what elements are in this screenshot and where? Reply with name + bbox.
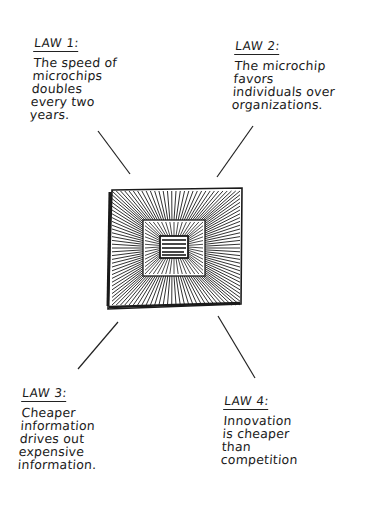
law-2: LAW 2: The microchip favors individuals … — [235, 35, 337, 111]
connector-law-1 — [98, 131, 130, 174]
law-3: LAW 3: Cheaper information drives out ex… — [22, 382, 101, 471]
law-line: competition — [220, 453, 298, 466]
law-title: LAW 1: — [33, 36, 80, 52]
law-line: information. — [17, 458, 96, 471]
law-description: Innovation is cheaper than competition — [220, 414, 300, 466]
law-description: The speed of microchips doubles every tw… — [29, 56, 117, 121]
law-description: Cheaper information drives out expensive… — [17, 406, 100, 471]
law-title: LAW 4: — [223, 394, 270, 410]
law-title: LAW 3: — [21, 386, 68, 402]
microchip-icon — [108, 188, 242, 309]
law-line: years. — [29, 108, 113, 121]
law-description: The microchip favors individuals over or… — [231, 59, 337, 111]
connector-law-3 — [78, 322, 118, 369]
law-line: organizations. — [231, 98, 334, 111]
law-4: LAW 4: Innovation is cheaper than compet… — [224, 390, 301, 466]
connector-law-4 — [218, 316, 255, 378]
law-title: LAW 2: — [234, 39, 281, 55]
law-1: LAW 1: The speed of microchips doubles e… — [34, 32, 117, 121]
connector-law-2 — [217, 126, 253, 177]
